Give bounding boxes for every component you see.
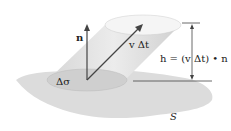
label-height-eq: h = (v Δt) • n	[160, 53, 228, 64]
label-v-dt: v Δt	[128, 39, 149, 50]
label-surface-s: S	[170, 111, 177, 122]
label-n: n	[76, 32, 84, 43]
normal-arrowhead-icon	[84, 24, 90, 31]
label-delta-sigma: Δσ	[56, 76, 70, 87]
top-cap	[105, 15, 181, 35]
height-arrow-up-icon	[190, 24, 194, 29]
flux-diagram: n v Δt h = (v Δt) • n Δσ S	[0, 0, 231, 131]
height-arrow-down-icon	[190, 75, 194, 80]
